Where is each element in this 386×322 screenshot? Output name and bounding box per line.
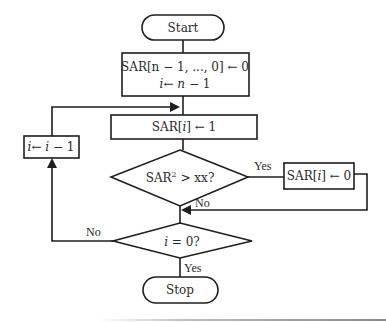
init-op: ← [163, 77, 177, 91]
arrow-decrement-head [47, 158, 57, 168]
check-zero-post: = 0? [168, 235, 200, 249]
start-terminal: Start [142, 15, 224, 40]
clear-bit-pre: SAR[ [287, 169, 318, 183]
zero-no-label: No [86, 225, 101, 239]
decrement-process: i← i − 1 [24, 136, 79, 158]
arrow-loop-head [170, 102, 180, 112]
decrement-label: i← i − 1 [28, 140, 75, 154]
decrement-rest: − 1 [49, 140, 74, 154]
arrow-return-head [181, 205, 191, 215]
clear-bit-process: SAR[i] ← 0 [284, 163, 354, 189]
init-expr: n [177, 77, 185, 91]
stop-terminal: Stop [143, 277, 218, 303]
flowchart-canvas: Start SAR[n − 1, ..., 0] ← 0 i← n − 1 SA… [0, 0, 386, 322]
bottom-rule [100, 319, 386, 321]
init-line1: SAR[n − 1, ..., 0] ← 0 [121, 60, 249, 74]
compare-label: SAR2 > xx? [146, 170, 215, 185]
init-process: SAR[n − 1, ..., 0] ← 0 i← n − 1 [121, 53, 249, 96]
set-bit-pre: SAR[ [152, 120, 183, 134]
connector-checkzero-no [52, 164, 113, 241]
set-bit-process: SAR[i] ← 1 [111, 115, 257, 139]
clear-bit-label: SAR[i] ← 0 [287, 169, 351, 183]
compare-yes-label: Yes [254, 159, 272, 173]
start-label: Start [168, 21, 199, 35]
check-zero-decision: i = 0? [113, 223, 252, 258]
compare-decision: SAR2 > xx? [111, 150, 248, 206]
init-line2: i← n − 1 [160, 77, 211, 91]
init-rest: − 1 [185, 77, 210, 91]
compare-post: > xx? [177, 171, 215, 185]
compare-pre: SAR [146, 171, 173, 185]
compare-no-label: No [195, 196, 210, 210]
set-bit-post: ] ← 1 [186, 120, 216, 134]
check-zero-label: i = 0? [164, 235, 200, 249]
clear-bit-post: ] ← 0 [321, 169, 351, 183]
stop-label: Stop [166, 283, 194, 297]
set-bit-label: SAR[i] ← 1 [152, 120, 216, 134]
zero-yes-label: Yes [184, 261, 202, 275]
decrement-op: ← [31, 140, 45, 154]
